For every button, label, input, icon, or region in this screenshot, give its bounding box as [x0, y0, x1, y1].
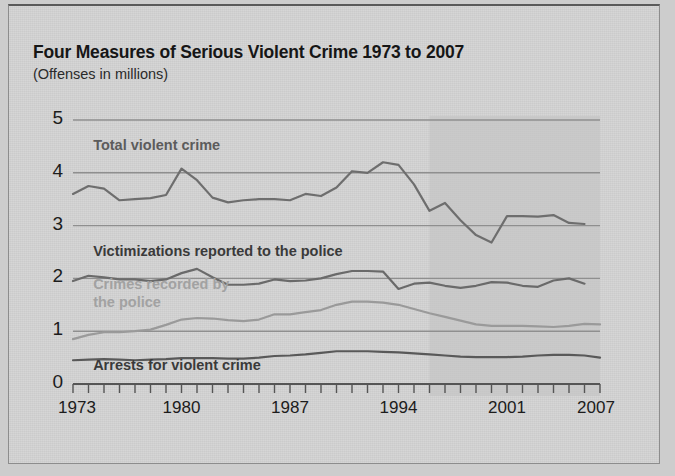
y-tick-label-0: 0	[37, 371, 63, 393]
series-label-1: Victimizations reported to the police	[93, 243, 343, 259]
y-tick-label-2: 2	[37, 265, 63, 287]
y-tick-label-4: 4	[37, 160, 63, 182]
x-tick-label-2001: 2001	[477, 398, 537, 418]
x-tick-label-2007: 2007	[566, 398, 626, 418]
series-label-0: Total violent crime	[93, 137, 220, 153]
x-tick-label-1987: 1987	[260, 398, 320, 418]
screenshot-page: Four Measures of Serious Violent Crime 1…	[0, 0, 675, 476]
series-label-2: Crimes recorded bythe police	[93, 276, 229, 310]
x-tick-label-1980: 1980	[152, 398, 212, 418]
shaded-region	[430, 116, 601, 396]
series-label-3: Arrests for violent crime	[93, 357, 261, 373]
y-tick-label-5: 5	[37, 107, 63, 129]
y-tick-label-1: 1	[37, 318, 63, 340]
series-label-line2-2: the police	[93, 294, 229, 310]
x-tick-label-1973: 1973	[47, 398, 107, 418]
y-tick-label-3: 3	[37, 213, 63, 235]
series-label-line1-2: Crimes recorded by	[93, 276, 229, 292]
x-tick-label-1994: 1994	[369, 398, 429, 418]
